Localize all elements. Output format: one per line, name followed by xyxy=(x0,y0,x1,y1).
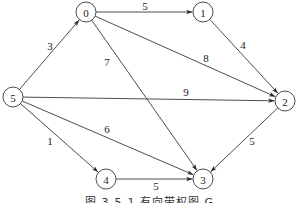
node-label: 0 xyxy=(83,7,89,19)
node-5: 5 xyxy=(3,87,23,107)
node-0: 0 xyxy=(76,2,96,22)
edge-weight-2-to-3: 5 xyxy=(249,135,255,147)
edge-weight-1-to-2: 4 xyxy=(240,39,246,51)
edge-5-to-4 xyxy=(21,104,99,173)
edge-weight-5-to-0: 3 xyxy=(47,40,53,52)
nodes-layer: 012345 xyxy=(3,2,295,189)
directed-weighted-graph: 012345 3587496155 xyxy=(0,0,299,203)
edge-weight-0-to-2: 8 xyxy=(203,52,209,64)
edge-weight-0-to-1: 5 xyxy=(142,0,148,12)
node-label: 3 xyxy=(200,174,206,186)
edge-0-to-2 xyxy=(95,16,275,97)
edge-weight-0-to-3: 7 xyxy=(104,56,110,68)
edge-weight-4-to-3: 5 xyxy=(153,180,159,192)
edge-2-to-3 xyxy=(211,108,278,172)
node-3: 3 xyxy=(193,169,213,189)
node-label: 1 xyxy=(200,7,206,19)
edge-0-to-3 xyxy=(92,20,197,170)
node-label: 5 xyxy=(10,92,16,104)
edges-layer xyxy=(20,12,278,179)
edge-5-to-2 xyxy=(23,97,275,101)
node-4: 4 xyxy=(96,169,116,189)
edge-weights-layer: 3587496155 xyxy=(47,0,255,192)
figure-caption: 图 3-5-1 有向带权图 G xyxy=(0,193,299,203)
node-1: 1 xyxy=(193,2,213,22)
node-2: 2 xyxy=(275,91,295,111)
edge-weight-5-to-3: 6 xyxy=(104,123,110,135)
node-label: 2 xyxy=(282,96,288,108)
edge-5-to-0 xyxy=(20,20,80,89)
node-label: 4 xyxy=(103,174,109,186)
edge-weight-5-to-4: 1 xyxy=(47,135,53,147)
edge-weight-5-to-2: 9 xyxy=(183,86,189,98)
